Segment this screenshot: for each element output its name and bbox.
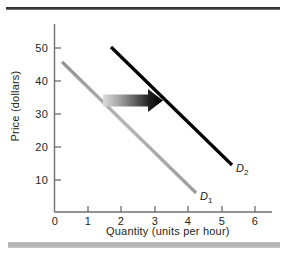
- demand-curve-d1: [62, 62, 196, 193]
- plot-area: [0, 0, 286, 254]
- curve-label-d1-letter: D: [200, 190, 208, 202]
- y-tick-label-10: 10: [26, 174, 48, 186]
- x-tick-label-0: 0: [48, 215, 62, 227]
- curve-label-d2-subscript: 2: [244, 168, 248, 177]
- curve-label-d1-subscript: 1: [208, 196, 212, 205]
- demand-shift-figure: 50 40 30 20 10 0 1 2 3 4 5 6 Price (doll…: [0, 0, 286, 254]
- curve-label-d1: D1: [200, 190, 212, 205]
- x-tick-label-1: 1: [81, 215, 95, 227]
- x-axis-title: Quantity (units per hour): [106, 225, 230, 237]
- curve-label-d2: D2: [236, 162, 248, 177]
- y-tick-label-30: 30: [26, 108, 48, 120]
- y-axis-title: Price (dollars): [9, 66, 21, 146]
- y-axis-ticks: [55, 48, 62, 180]
- y-tick-label-20: 20: [26, 141, 48, 153]
- demand-curve-d1-highlight: [61, 63, 195, 194]
- x-axis-ticks: [88, 206, 255, 212]
- x-tick-label-6: 6: [248, 215, 262, 227]
- y-tick-label-40: 40: [26, 75, 48, 87]
- curve-label-d2-letter: D: [236, 162, 244, 174]
- y-tick-label-50: 50: [26, 42, 48, 54]
